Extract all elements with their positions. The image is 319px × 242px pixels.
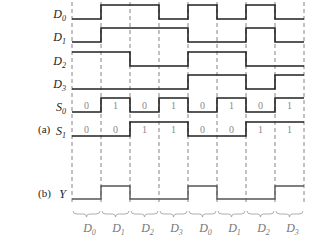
brace <box>131 211 158 217</box>
signal-d1: D1 <box>52 28 304 46</box>
logic-value: 0 <box>84 124 89 135</box>
signal-label: D3 <box>52 77 66 93</box>
logic-value: 1 <box>113 100 118 111</box>
selected-input-label: D0 <box>198 221 212 237</box>
selected-input-label: D3 <box>169 221 183 237</box>
logic-value: 0 <box>113 124 118 135</box>
output-y-wave <box>72 186 304 199</box>
logic-value: 1 <box>287 124 292 135</box>
selected-input-label: D2 <box>256 221 270 237</box>
brace <box>247 211 274 217</box>
panel-label-a: (a) <box>38 123 51 136</box>
brace <box>276 211 303 217</box>
logic-value: 1 <box>229 100 234 111</box>
logic-value: 0 <box>200 100 205 111</box>
logic-value: 1 <box>171 100 176 111</box>
panel-label-b: (b) <box>38 187 51 200</box>
input-signal-waveforms: D0D1D2D3S001010101S100110011 <box>52 5 304 140</box>
signal-label: D2 <box>52 54 66 70</box>
logic-value: 0 <box>84 100 89 111</box>
signal-d0: D0 <box>52 5 304 23</box>
logic-value: 0 <box>200 124 205 135</box>
brace <box>189 211 216 217</box>
signal-s1: S100110011 <box>56 122 304 140</box>
brace <box>73 211 100 217</box>
signal-label: D1 <box>52 30 66 46</box>
selected-input-label: D3 <box>285 221 299 237</box>
logic-value: 1 <box>142 124 147 135</box>
segment-braces: D0D1D2D3D0D1D2D3 <box>73 211 303 237</box>
logic-value: 1 <box>171 124 176 135</box>
timing-diagram: D0D1D2D3S001010101S100110011 Y D0D1D2D3D… <box>0 0 319 242</box>
brace <box>218 211 245 217</box>
signal-d2: D2 <box>52 52 304 70</box>
brace <box>160 211 187 217</box>
brace <box>102 211 129 217</box>
signal-s0: S001010101 <box>56 98 304 116</box>
logic-value: 0 <box>258 100 263 111</box>
selected-input-label: D1 <box>111 221 125 237</box>
signal-label: S1 <box>56 124 66 140</box>
output-waveform: Y <box>59 186 304 201</box>
logic-value: 0 <box>142 100 147 111</box>
signal-label: S0 <box>56 100 66 116</box>
selected-input-label: D2 <box>140 221 154 237</box>
output-label: Y <box>59 187 67 201</box>
selected-input-label: D0 <box>82 221 96 237</box>
signal-d3: D3 <box>52 75 304 93</box>
logic-value: 1 <box>258 124 263 135</box>
logic-value: 0 <box>229 124 234 135</box>
selected-input-label: D1 <box>227 221 241 237</box>
signal-label: D0 <box>52 7 66 23</box>
logic-value: 1 <box>287 100 292 111</box>
